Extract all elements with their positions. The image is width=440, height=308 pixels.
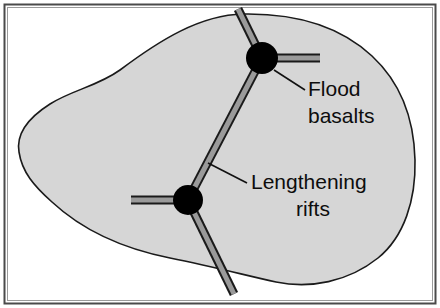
flood-basalt-node-upper (246, 42, 278, 74)
label-lengthening-rifts-line1: Lengthening (251, 170, 367, 193)
label-flood-basalts-line1: Flood (308, 77, 361, 100)
label-lengthening-rifts-line2: rifts (296, 197, 330, 220)
flood-basalt-node-lower (173, 185, 203, 215)
diagram-canvas: Flood basalts Lengthening rifts (0, 0, 440, 308)
label-flood-basalts-line2: basalts (308, 104, 375, 127)
figure-container: Flood basalts Lengthening rifts (0, 0, 440, 308)
